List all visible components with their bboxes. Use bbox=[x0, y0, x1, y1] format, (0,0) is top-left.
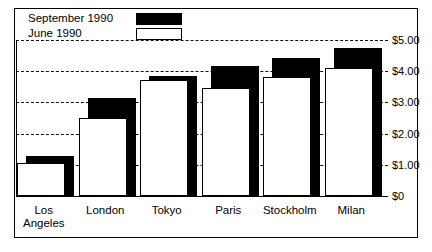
bar-june-stockholm bbox=[263, 77, 311, 196]
legend-swatch-september bbox=[136, 13, 182, 25]
legend-swatch-june bbox=[136, 28, 182, 40]
bar-june-london bbox=[79, 118, 127, 196]
chart-screenshot: September 1990 June 1990 $5.00 $4.00 $3.… bbox=[0, 0, 432, 252]
bar-june-tokyo bbox=[140, 80, 188, 196]
bar-june-paris bbox=[202, 88, 250, 196]
legend-item-september: September 1990 bbox=[28, 11, 182, 26]
xaxis-label-tokyo: Tokyo bbox=[134, 204, 200, 217]
xaxis-label-los-angeles: Los Angeles bbox=[11, 204, 77, 230]
ytick-label-0: $0 bbox=[392, 191, 404, 202]
ytick-label-3: $3.00 bbox=[392, 97, 420, 108]
axis-baseline bbox=[16, 196, 388, 197]
ytick-label-1: $1.00 bbox=[392, 160, 420, 171]
bar-june-los-angeles bbox=[17, 163, 65, 196]
legend-item-june: June 1990 bbox=[28, 26, 182, 41]
legend-label-june: June 1990 bbox=[28, 26, 136, 41]
xaxis-label-paris: Paris bbox=[196, 204, 262, 217]
plot-area: September 1990 June 1990 $5.00 $4.00 $3.… bbox=[0, 0, 432, 252]
ytick-label-5: $5.00 bbox=[392, 35, 420, 46]
chart-legend: September 1990 June 1990 bbox=[28, 11, 182, 41]
bar-june-milan bbox=[325, 68, 373, 196]
xaxis-label-london: London bbox=[73, 204, 139, 217]
xaxis-label-stockholm: Stockholm bbox=[257, 204, 323, 217]
ytick-label-2: $2.00 bbox=[392, 129, 420, 140]
legend-label-september: September 1990 bbox=[28, 11, 136, 26]
ytick-label-4: $4.00 bbox=[392, 66, 420, 77]
gridline-5 bbox=[16, 40, 388, 41]
xaxis-label-milan: Milan bbox=[319, 204, 385, 217]
